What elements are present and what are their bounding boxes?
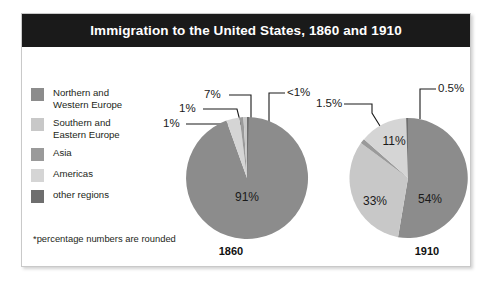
pie-year-label-1860: 1860 xyxy=(147,245,315,257)
legend-swatch-icon xyxy=(31,88,44,101)
plot-area: Northern and Western Europe Southern and… xyxy=(22,47,470,266)
pie-slice-value-1910-left: 33% xyxy=(363,194,387,208)
legend-item-northern-western-europe: Northern and Western Europe xyxy=(31,87,153,110)
legend-item-americas: Americas xyxy=(31,168,153,182)
pie-chart-1910: 54% 33% 11% 1.5% 0.5% 1910 xyxy=(322,79,482,257)
pie-callout-1910-b: 0.5% xyxy=(438,82,464,94)
pie-callout-1860-c: 7% xyxy=(204,88,221,100)
page-title: Immigration to the United States, 1860 a… xyxy=(90,23,402,38)
chart-title-bar: Immigration to the United States, 1860 a… xyxy=(22,14,470,47)
footnote-text: *percentage numbers are rounded xyxy=(33,233,176,244)
legend-swatch-icon xyxy=(31,169,44,182)
legend-item-southern-eastern-europe: Southern and Eastern Europe xyxy=(31,117,153,140)
pie-slice-value-1860-main: 91% xyxy=(235,190,259,204)
chart-figure: Immigration to the United States, 1860 a… xyxy=(21,13,471,267)
pie-callout-1860-b: 1% xyxy=(179,102,196,114)
pie-slices-1910 xyxy=(347,117,469,239)
legend-swatch-icon xyxy=(31,190,44,203)
legend-swatch-icon xyxy=(31,118,44,131)
pie-callout-1860-d: <1% xyxy=(287,86,310,98)
legend-item-label: Northern and Western Europe xyxy=(53,87,122,110)
pie-slice-value-1910-main: 54% xyxy=(418,192,442,206)
pie-chart-1860: 91% 1% 1% 7% <1% 1860 xyxy=(163,79,331,257)
legend-item-label: Asia xyxy=(53,147,72,159)
pie-slice-value-1910-top: 11% xyxy=(382,134,405,148)
legend-item-label: Americas xyxy=(53,168,93,180)
pie-callout-1910-a: 1.5% xyxy=(316,97,342,109)
legend-item-asia: Asia xyxy=(31,147,153,161)
legend-item-label: Southern and Eastern Europe xyxy=(53,117,120,140)
pie-callout-1860-a: 1% xyxy=(163,117,180,129)
legend-item-other-regions: other regions xyxy=(31,189,153,203)
legend: Northern and Western Europe Southern and… xyxy=(31,87,153,210)
pie-slices-1860 xyxy=(185,116,309,240)
pie-year-label-1910: 1910 xyxy=(347,245,494,257)
legend-item-label: other regions xyxy=(53,189,109,201)
legend-swatch-icon xyxy=(31,148,44,161)
